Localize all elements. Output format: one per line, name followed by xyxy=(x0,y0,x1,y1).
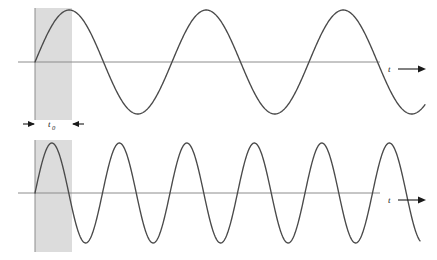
time-axis-label-bottom: t xyxy=(388,195,391,205)
duration-dimension-group: t 0 xyxy=(23,119,84,131)
time-axis-label-top: t xyxy=(388,64,391,74)
duration-arrow-left-head xyxy=(28,121,35,127)
gate-window-shade-top xyxy=(35,8,72,120)
waveform-figure: t t 0 t xyxy=(0,0,437,260)
time-arrow-head-bottom xyxy=(418,197,426,204)
time-axis-label-group-top: t xyxy=(388,64,426,74)
duration-arrow-right-head xyxy=(72,121,79,127)
time-arrow-head-top xyxy=(418,66,426,73)
duration-label-subscript: 0 xyxy=(52,124,56,131)
waveform-figure-canvas: t t 0 t xyxy=(0,0,437,260)
duration-label-base: t xyxy=(48,119,51,129)
gate-window-shade-bottom xyxy=(35,140,72,252)
